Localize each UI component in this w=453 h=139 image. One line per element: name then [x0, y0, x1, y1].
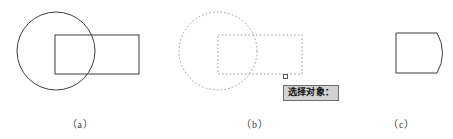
result-region-shape-c [396, 33, 443, 73]
rectangle-shape-a [55, 35, 139, 74]
panel-a-caption: （a） [0, 116, 160, 131]
panel-c-caption: （c） [350, 116, 453, 131]
panel-a: （a） [0, 0, 160, 139]
panel-c-canvas [350, 0, 453, 105]
panel-c: （c） [350, 0, 453, 139]
pickbox-cursor[interactable] [283, 74, 288, 79]
panel-b-caption: （b） [160, 116, 350, 131]
panel-a-canvas [0, 0, 160, 105]
panel-b: 选择对象： （b） [160, 0, 350, 139]
circle-shape-a [17, 12, 95, 90]
circle-shape-b-selected [179, 12, 257, 90]
select-object-prompt: 选择对象： [283, 85, 339, 101]
rectangle-shape-b-selected [218, 35, 302, 74]
figure-container: （a） 选择对象： （b） （c） [0, 0, 453, 139]
